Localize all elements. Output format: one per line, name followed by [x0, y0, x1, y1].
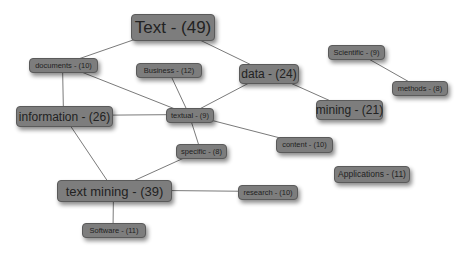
node-text-mining[interactable]: text mining - (39): [57, 180, 172, 202]
node-mining[interactable]: mining - (21): [316, 100, 383, 120]
node-textual[interactable]: textual - (9): [166, 108, 214, 123]
node-research[interactable]: research - (10): [238, 185, 298, 200]
node-software[interactable]: Software - (11): [82, 223, 146, 238]
node-text[interactable]: Text - (49): [131, 14, 215, 41]
node-scientific[interactable]: Scientific - (9): [328, 45, 385, 60]
node-content[interactable]: content - (10): [276, 137, 333, 153]
node-methods[interactable]: methods - (8): [392, 81, 448, 96]
node-specific[interactable]: specific - (8): [176, 144, 227, 159]
node-data[interactable]: data - (24): [239, 64, 299, 84]
node-information[interactable]: information - (26): [16, 106, 113, 127]
node-documents[interactable]: documents - (10): [29, 58, 98, 73]
edge-layer: [0, 0, 465, 255]
node-applications[interactable]: Applications - (11): [334, 166, 410, 183]
node-business[interactable]: Business - (12): [136, 63, 202, 78]
